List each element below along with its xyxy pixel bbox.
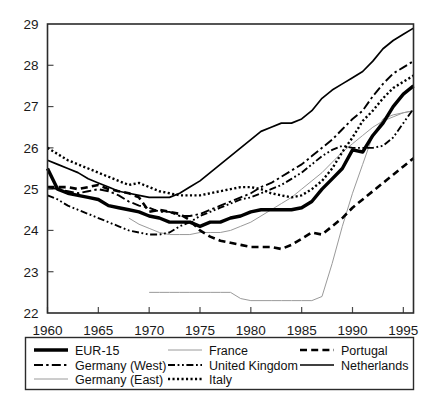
legend-label-italy: Italy	[209, 373, 233, 387]
legend-label-portugal: Portugal	[341, 344, 388, 358]
series-line-france	[129, 111, 414, 235]
y-tick-label: 23	[23, 265, 38, 280]
legend-label-united-kingdom: United Kingdom	[209, 359, 298, 373]
x-axis-tick-labels: 19601965197019751980198519901995	[32, 323, 418, 338]
plot-frame	[48, 24, 414, 313]
legend-label-germany-west: Germany (West)	[75, 359, 166, 373]
x-tick-label: 1975	[185, 323, 215, 338]
y-tick-label: 26	[23, 141, 38, 156]
chart-container: 2223242526272829 19601965197019751980198…	[0, 0, 439, 411]
legend-label-eur-15: EUR-15	[75, 344, 120, 358]
series-line-germany-east	[149, 111, 413, 301]
y-tick-label: 24	[23, 223, 39, 238]
series-line-italy	[48, 76, 414, 198]
legend: EUR-15Germany (West)Germany (East)France…	[34, 344, 408, 387]
series-line-netherlands	[48, 28, 414, 197]
series-group	[48, 28, 414, 300]
legend-label-germany-east: Germany (East)	[75, 373, 163, 387]
legend-label-france: France	[209, 344, 248, 358]
x-tick-label: 1995	[388, 323, 418, 338]
x-axis-ticks	[48, 307, 404, 313]
x-tick-label: 1985	[287, 323, 317, 338]
y-tick-label: 25	[23, 182, 38, 197]
legend-label-netherlands: Netherlands	[341, 359, 408, 373]
x-tick-label: 1960	[32, 323, 62, 338]
x-tick-label: 1990	[337, 323, 367, 338]
y-tick-label: 22	[23, 306, 38, 321]
x-tick-label: 1970	[134, 323, 164, 338]
y-tick-label: 27	[23, 99, 38, 114]
y-tick-label: 28	[23, 58, 38, 73]
y-tick-label: 29	[23, 17, 38, 32]
y-axis-tick-labels: 2223242526272829	[23, 17, 39, 321]
x-tick-label: 1980	[236, 323, 266, 338]
x-tick-label: 1965	[83, 323, 113, 338]
line-chart-svg: 2223242526272829 19601965197019751980198…	[0, 0, 439, 411]
